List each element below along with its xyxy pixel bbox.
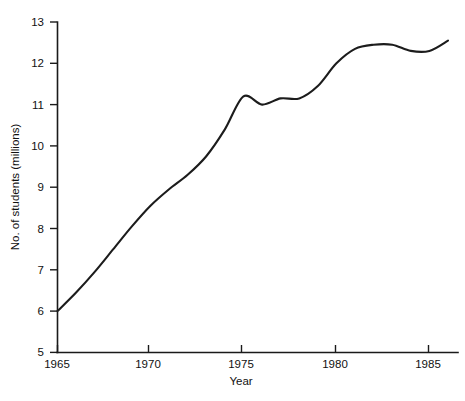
x-axis-title: Year	[229, 375, 252, 387]
y-tick-label-11: 11	[32, 99, 44, 111]
line-chart-canvas: 13 12 11 10 9 8 7 6 5 1965 1970 1975 198…	[0, 0, 465, 401]
x-tick-label-1970: 1970	[135, 358, 161, 370]
x-axis-tick-labels: 1965 1970 1975 1980 1985	[44, 358, 441, 370]
y-tick-label-10: 10	[31, 140, 44, 152]
y-axis-title: No. of students (millions)	[9, 124, 21, 251]
y-axis-tick-labels: 13 12 11 10 9 8 7 6 5	[31, 16, 44, 358]
x-tick-label-1985: 1985	[415, 358, 441, 370]
y-axis-ticks	[50, 22, 57, 352]
x-tick-label-1980: 1980	[322, 358, 348, 370]
chart-figure: 13 12 11 10 9 8 7 6 5 1965 1970 1975 198…	[0, 0, 465, 401]
x-tick-label-1975: 1975	[228, 358, 254, 370]
y-tick-label-7: 7	[38, 264, 44, 276]
y-tick-label-8: 8	[38, 223, 44, 235]
y-tick-label-5: 5	[38, 346, 44, 358]
x-tick-label-1965: 1965	[44, 358, 70, 370]
y-tick-label-13: 13	[31, 16, 44, 28]
x-axis-ticks	[58, 345, 429, 352]
data-series-line	[58, 41, 449, 312]
y-tick-label-12: 12	[31, 57, 44, 69]
y-tick-label-9: 9	[38, 181, 44, 193]
y-tick-label-6: 6	[38, 305, 44, 317]
